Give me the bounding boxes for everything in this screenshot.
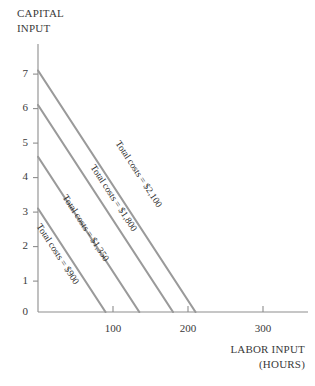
y-tick-label-6: 6 [12,101,28,113]
y-tick-label-0: 0 [12,305,28,317]
x-tick-label-100: 100 [93,322,133,334]
y-tick-label-2: 2 [12,239,28,251]
y-tick-label-7: 7 [12,67,28,79]
isocost-line-900 [38,209,106,313]
x-tick-label-200: 200 [168,322,208,334]
y-tick-label-1: 1 [12,274,28,286]
x-tick-label-300: 300 [243,322,283,334]
y-tick-label-3: 3 [12,205,28,217]
isocost-lines [38,71,196,313]
y-tick-label-4: 4 [12,170,28,182]
y-tick-label-5: 5 [12,136,28,148]
isocost-line-1800 [38,105,173,312]
isocost-chart: CAPITAL INPUT LABOR INPUT (HOURS) [0,0,315,386]
